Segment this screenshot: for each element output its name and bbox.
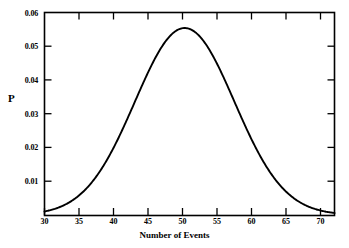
xtick-label-8: 70 — [310, 217, 332, 226]
ytick-label-1: 0.05 — [8, 42, 38, 51]
ytick-label-0: 0.06 — [8, 9, 38, 18]
x-axis-ticks-bottom — [45, 208, 321, 215]
probability-distribution-chart: 0.06 0.05 0.04 0.03 0.02 0.01 30 35 40 4… — [0, 0, 349, 248]
x-axis-ticks-top — [79, 13, 321, 20]
xtick-label-7: 65 — [275, 217, 297, 226]
xtick-label-2: 40 — [103, 217, 125, 226]
xtick-label-0: 30 — [34, 217, 56, 226]
xtick-label-5: 55 — [206, 217, 228, 226]
plot-canvas — [0, 0, 349, 248]
y-axis-ticks-right — [328, 46, 335, 181]
y-axis-ticks-left — [45, 46, 52, 181]
ytick-label-4: 0.02 — [8, 143, 38, 152]
ytick-label-2: 0.04 — [8, 76, 38, 85]
xtick-label-4: 50 — [172, 217, 194, 226]
xtick-label-3: 45 — [137, 217, 159, 226]
y-axis-label: P — [8, 92, 15, 104]
xtick-label-6: 60 — [241, 217, 263, 226]
ytick-label-5: 0.01 — [8, 177, 38, 186]
xtick-label-1: 35 — [68, 217, 90, 226]
plot-frame — [45, 13, 335, 216]
x-axis-label: Number of Events — [0, 230, 349, 240]
ytick-label-3: 0.03 — [8, 110, 38, 119]
distribution-curve — [45, 28, 335, 213]
